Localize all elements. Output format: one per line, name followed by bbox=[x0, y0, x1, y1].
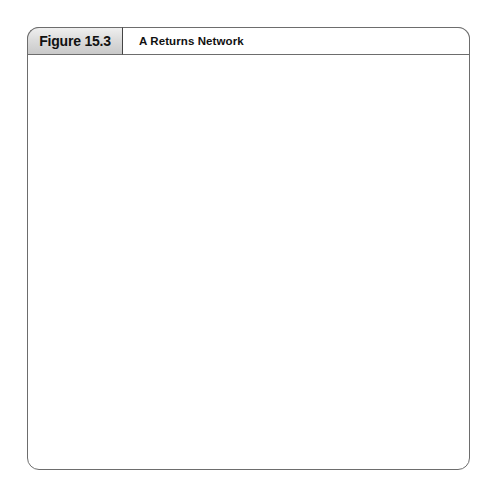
figure-title: A Returns Network bbox=[123, 27, 470, 55]
figure-number-tab: Figure 15.3 bbox=[27, 27, 123, 55]
figure-header: Figure 15.3 A Returns Network bbox=[27, 27, 470, 55]
figure-root: Retailers Disposal Markets Reuse Markets… bbox=[0, 0, 494, 494]
figure-border bbox=[27, 27, 470, 470]
